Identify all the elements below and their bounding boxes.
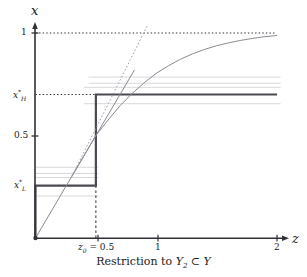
xH-sub: H xyxy=(21,95,26,102)
y-tick-label-xH: x*H xyxy=(13,89,26,102)
tangent-dotted xyxy=(72,25,148,177)
caption-subset: ⊂ xyxy=(187,255,203,268)
y-axis-arrow xyxy=(32,22,38,29)
step-policy xyxy=(36,95,278,239)
y-tick-label-1: 1 xyxy=(21,28,27,37)
x-axis-arrow xyxy=(282,235,289,241)
z0-rest: = 0.5 xyxy=(87,242,115,252)
figure-caption: Restriction to Y2 ⊂ Y xyxy=(0,256,307,271)
caption-y2: Y xyxy=(176,255,183,268)
axis-lines xyxy=(32,22,290,242)
concave-curve xyxy=(72,35,277,176)
figure-canvas xyxy=(0,0,307,277)
y-tick-label-0p5: 0.5 xyxy=(14,131,28,140)
caption-y: Y xyxy=(204,255,211,268)
caption-prefix: Restriction to xyxy=(96,255,175,268)
data-series xyxy=(36,25,278,238)
reference-lines xyxy=(36,33,275,238)
xL-sub: L xyxy=(22,185,26,192)
y-tick-label-xL: x*L xyxy=(14,179,26,192)
x-tick-label-z0: z0 = 0.5 xyxy=(78,243,114,254)
x-tick-label-2: 2 xyxy=(274,243,280,252)
y-axis-label: x xyxy=(31,4,38,17)
x-tick-label-1: 1 xyxy=(155,243,161,252)
x-axis-label: z xyxy=(292,232,299,245)
origin-dot xyxy=(33,236,37,240)
